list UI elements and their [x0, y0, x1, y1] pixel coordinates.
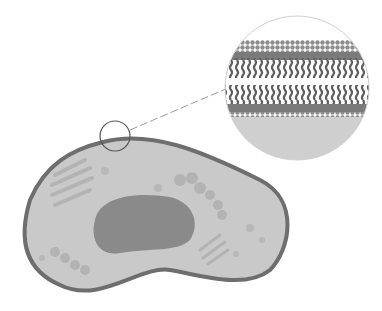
cell: [25, 138, 288, 290]
cell-diagram: [0, 0, 382, 311]
zoom-callout: [130, 88, 228, 130]
nucleus: [94, 195, 195, 254]
phospholipid-bilayer: [220, 10, 380, 177]
